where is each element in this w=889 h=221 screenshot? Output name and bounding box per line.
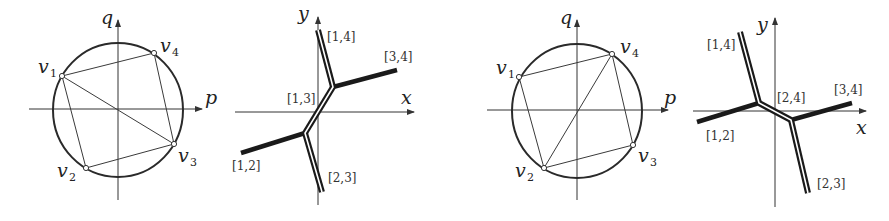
quadrilateral <box>519 54 633 168</box>
tropical-curves-figure: p q v 1 v 2 v 3 v 4 x y <box>0 0 889 221</box>
edge-3-4 <box>333 70 397 87</box>
panel-dual-subdivision-a: p q v 1 v 2 v 3 v 4 <box>29 6 217 200</box>
svg-text:4: 4 <box>172 46 179 59</box>
svg-text:v: v <box>57 159 68 181</box>
svg-text:v: v <box>496 56 507 78</box>
edge-1-2 <box>241 133 305 153</box>
svg-text:1: 1 <box>508 68 515 81</box>
svg-text:v: v <box>38 55 49 77</box>
edge-label-1-2: [1,2] <box>706 129 734 143</box>
vertex-v3 <box>630 142 635 147</box>
svg-text:v: v <box>620 35 631 57</box>
label-v4: v 4 <box>160 34 179 59</box>
edge-label-2-4: [2,4] <box>777 91 805 105</box>
vertex-v3 <box>171 141 176 146</box>
panel-dual-subdivision-b: p q v 1 v 2 v 3 v 4 <box>487 6 676 200</box>
diagonal-v2-v4 <box>544 54 612 168</box>
svg-text:v: v <box>638 144 649 166</box>
y-axis-label: y <box>756 13 768 35</box>
edge-label-3-4: [3,4] <box>834 83 862 97</box>
panel-tropical-curve-a: x y [1,4] [3,4] [1,3] [1,2] [2,3] <box>232 2 414 205</box>
edge-label-2-3: [2,3] <box>817 177 845 191</box>
svg-text:4: 4 <box>632 47 639 60</box>
vertex-v1 <box>516 74 521 79</box>
label-v3: v 3 <box>178 144 197 169</box>
x-axis-label: x <box>856 116 867 138</box>
edge-label-1-4: [1,4] <box>707 38 735 52</box>
svg-text:2: 2 <box>527 171 534 184</box>
svg-text:v: v <box>515 159 526 181</box>
vertex-v2 <box>83 165 88 170</box>
vertex-v4 <box>609 51 614 56</box>
label-v3: v 3 <box>638 144 657 169</box>
vertex-v4 <box>151 50 156 55</box>
svg-text:v: v <box>160 34 171 56</box>
q-axis-label: q <box>101 6 113 28</box>
edge-double-inner <box>305 30 333 192</box>
vertex-v1 <box>59 73 64 78</box>
svg-text:3: 3 <box>650 156 657 169</box>
p-axis-label: p <box>205 86 217 108</box>
svg-text:2: 2 <box>69 171 76 184</box>
edge-label-1-3: [1,3] <box>287 92 315 106</box>
svg-text:3: 3 <box>190 156 197 169</box>
edge-label-1-4: [1,4] <box>327 30 355 44</box>
y-axis-label: y <box>297 2 309 24</box>
x-axis-label: x <box>401 86 412 108</box>
panel-tropical-curve-b: x y [1,4] [3,4] [2,4] [1,2] [2,3] <box>693 13 867 207</box>
q-axis-label: q <box>560 6 572 28</box>
edge-label-1-2: [1,2] <box>232 159 260 173</box>
svg-text:1: 1 <box>50 67 57 80</box>
edge-label-2-3: [2,3] <box>328 171 356 185</box>
edge-1-2 <box>697 103 759 122</box>
edge-label-3-4: [3,4] <box>384 50 412 64</box>
label-v2: v 2 <box>515 159 534 184</box>
p-axis-label: p <box>664 86 676 108</box>
label-v2: v 2 <box>57 159 76 184</box>
label-v1: v 1 <box>38 55 57 80</box>
label-v4: v 4 <box>620 35 639 60</box>
label-v1: v 1 <box>496 56 515 81</box>
svg-text:v: v <box>178 144 189 166</box>
vertex-v2 <box>541 165 546 170</box>
